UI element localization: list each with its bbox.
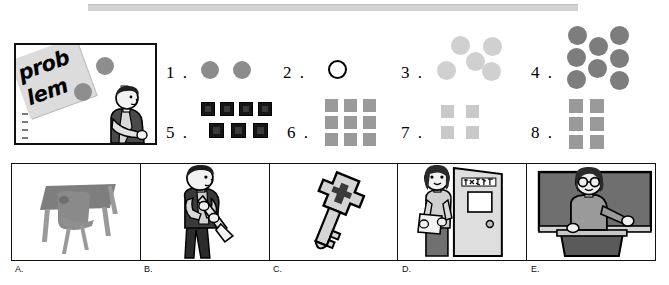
item-8-square-4 <box>590 117 604 131</box>
panel-c[interactable] <box>270 164 399 260</box>
item-8-square-2 <box>590 99 604 113</box>
item-4-circle-6 <box>588 59 607 78</box>
item-2-number: 2 . <box>283 63 306 83</box>
problem-tick-4 <box>22 137 28 139</box>
item-6-square-3 <box>363 99 376 112</box>
item-5-number: 5 . <box>166 123 189 143</box>
problem-tick-2 <box>22 121 28 123</box>
panel-a-label: A. <box>11 264 140 280</box>
item-2: 2 . <box>283 60 393 86</box>
item-8-square-3 <box>569 117 583 131</box>
panel-c-label: C. <box>269 264 398 280</box>
panel-e-label: E. <box>527 264 656 280</box>
item-4-number: 4 . <box>531 63 554 83</box>
item-6-square-2 <box>344 99 357 112</box>
item-3-circle-2 <box>483 37 502 56</box>
boy-thinking-icon <box>101 85 149 143</box>
item-5: 5 . <box>166 102 286 146</box>
problem-dot-2 <box>74 83 92 101</box>
panel-b-label: B. <box>140 264 269 280</box>
panel-e[interactable] <box>527 164 655 260</box>
item-8: 8 . <box>531 99 651 149</box>
answer-choice-panel-strip <box>11 163 656 261</box>
panel-d[interactable] <box>398 164 527 260</box>
item-7-square-4 <box>466 126 479 139</box>
boy-playing-clarinet-icon <box>141 164 269 260</box>
item-4-circle-8 <box>610 71 629 90</box>
item-1-circle-1 <box>201 61 219 79</box>
item-7-square-3 <box>441 126 454 139</box>
item-4-circle-7 <box>567 70 586 89</box>
item-1-number: 1 . <box>166 63 189 83</box>
item-7: 7 . <box>401 105 521 149</box>
panel-a[interactable] <box>12 164 141 260</box>
item-8-number: 8 . <box>531 123 554 143</box>
item-5-square-5 <box>209 123 224 138</box>
problem-label-tag: prob lem <box>14 43 96 119</box>
item-6-square-7 <box>325 133 338 146</box>
item-1: 1 . <box>166 60 276 86</box>
item-4-circle-5 <box>610 49 629 68</box>
item-7-square-2 <box>466 105 479 118</box>
worksheet-page: prob lem <box>0 0 669 285</box>
desk-and-chair-icon <box>12 164 140 260</box>
item-7-square-1 <box>441 105 454 118</box>
item-6-square-8 <box>344 133 357 146</box>
item-5-square-4 <box>258 102 272 116</box>
item-4-circle-4 <box>567 48 586 67</box>
item-3: 3 . <box>401 34 521 88</box>
item-8-square-1 <box>569 99 583 113</box>
teacher-at-blackboard-icon <box>527 164 655 260</box>
item-3-number: 3 . <box>401 63 424 83</box>
item-3-circle-4 <box>437 61 456 80</box>
item-3-circle-5 <box>482 62 501 81</box>
item-6-square-5 <box>344 116 357 129</box>
item-3-circle-1 <box>451 36 470 55</box>
key-icon <box>270 164 398 260</box>
item-5-square-3 <box>239 102 253 116</box>
item-5-square-2 <box>220 102 234 116</box>
panel-label-row: A. B. C. D. E. <box>11 264 656 280</box>
item-1-circle-2 <box>233 61 251 79</box>
item-4-circle-2 <box>610 26 629 45</box>
panel-b[interactable] <box>141 164 270 260</box>
item-6-square-9 <box>363 133 376 146</box>
item-8-square-5 <box>569 135 583 149</box>
item-5-square-7 <box>253 123 268 138</box>
item-5-square-6 <box>231 123 246 138</box>
item-6-square-6 <box>363 116 376 129</box>
item-6: 6 . <box>287 99 407 149</box>
item-2-circle-1 <box>328 60 347 79</box>
problem-dot-1 <box>96 57 114 75</box>
gray-divider-bar <box>88 4 578 11</box>
item-6-square-1 <box>325 99 338 112</box>
woman-at-door-icon <box>398 164 526 260</box>
panel-d-label: D. <box>398 264 527 280</box>
item-4: 4 . <box>531 26 661 88</box>
item-5-square-1 <box>201 102 215 116</box>
item-6-number: 6 . <box>287 123 310 143</box>
item-4-circle-3 <box>589 37 608 56</box>
item-6-square-4 <box>325 116 338 129</box>
item-7-number: 7 . <box>401 123 424 143</box>
item-4-circle-1 <box>568 26 587 45</box>
problem-tick-1 <box>22 113 28 115</box>
problem-tick-3 <box>22 129 28 131</box>
problem-illustration-box: prob lem <box>14 43 157 145</box>
item-8-square-6 <box>590 135 604 149</box>
